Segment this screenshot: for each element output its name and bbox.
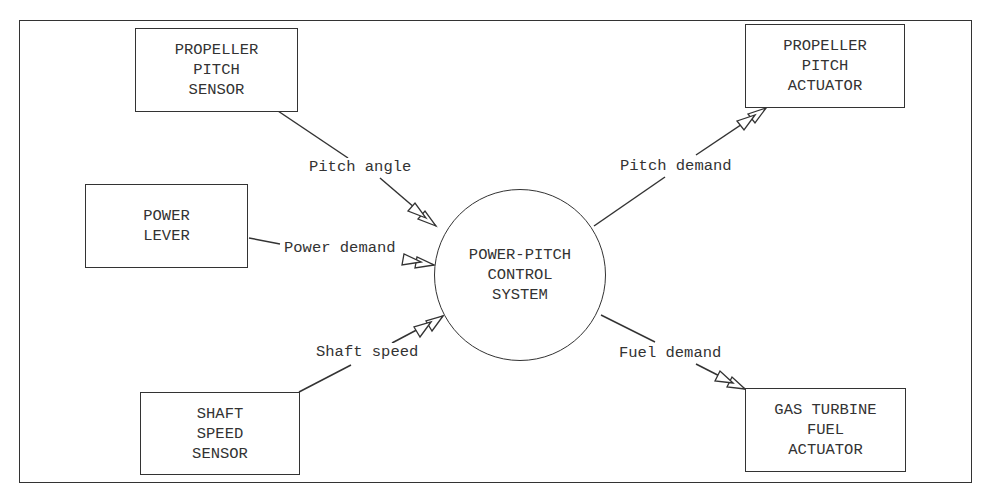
node-label: POWER-PITCH	[469, 245, 571, 265]
node-power-lever: POWER LEVER	[85, 184, 248, 268]
node-label: PROPELLER	[783, 36, 867, 56]
node-label: SPEED	[197, 424, 244, 444]
node-label: GAS TURBINE	[774, 400, 876, 420]
node-label: LEVER	[143, 226, 190, 246]
node-label: SHAFT	[197, 404, 244, 424]
node-gas-turbine-fuel-actuator: GAS TURBINE FUEL ACTUATOR	[745, 388, 906, 472]
edge-label-fuel-demand: Fuel demand	[618, 344, 722, 362]
node-label: PITCH	[193, 60, 240, 80]
node-label: SENSOR	[189, 80, 245, 100]
arrowhead-icon	[737, 115, 755, 130]
node-label: PITCH	[802, 56, 849, 76]
node-label: ACTUATOR	[788, 440, 862, 460]
node-label: CONTROL	[487, 265, 552, 285]
edge-label-pitch-angle: Pitch angle	[308, 158, 412, 176]
node-label: SYSTEM	[492, 285, 548, 305]
node-label: ACTUATOR	[788, 76, 862, 96]
arrowhead-icon	[414, 322, 431, 337]
edge-label-pitch-demand: Pitch demand	[619, 157, 733, 175]
edge-label-power-demand: Power demand	[283, 239, 397, 257]
node-power-pitch-control-system: POWER-PITCH CONTROL SYSTEM	[434, 189, 606, 361]
edge-label-shaft-speed: Shaft speed	[315, 343, 419, 361]
node-propeller-pitch-actuator: PROPELLER PITCH ACTUATOR	[745, 24, 905, 108]
node-propeller-pitch-sensor: PROPELLER PITCH SENSOR	[135, 28, 298, 112]
context-diagram: PROPELLER PITCH SENSOR POWER LEVER SHAFT…	[0, 0, 981, 503]
node-label: FUEL	[807, 420, 844, 440]
node-label: SENSOR	[192, 444, 248, 464]
node-label: PROPELLER	[175, 40, 259, 60]
node-shaft-speed-sensor: SHAFT SPEED SENSOR	[140, 392, 300, 475]
arrowhead-icon	[715, 371, 733, 383]
node-label: POWER	[143, 206, 190, 226]
